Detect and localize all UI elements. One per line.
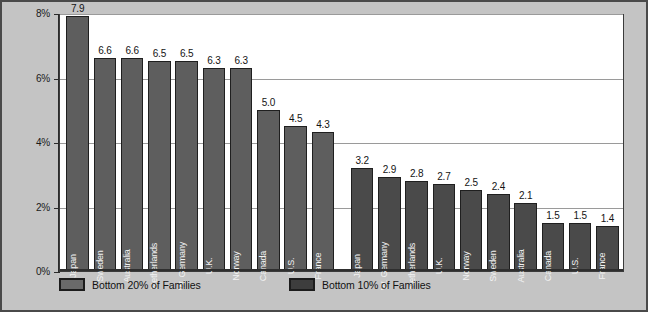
bar[interactable]: W. Germany [378,177,400,271]
bar-column[interactable]: U.S.4.5 [282,13,309,271]
bar-value-label: 1.5 [573,210,586,221]
bar-category-label: France [313,253,323,280]
bar[interactable]: Canada [257,110,279,271]
bar-value-label: 4.3 [316,119,329,130]
legend-label: Bottom 10% of Families [322,279,431,291]
bar-column[interactable]: Australia2.1 [512,13,539,271]
legend-item[interactable]: Bottom 20% of Families [59,278,201,291]
bar-category-label: Norway [461,251,471,280]
bar-value-label: 6.5 [153,48,166,59]
bar-category-label: Sweden [95,250,105,281]
bar[interactable]: Norway [230,68,252,271]
bar-column[interactable]: Japan7.9 [64,13,91,271]
bar-column[interactable]: Australia6.6 [119,13,146,271]
bar-category-label: France [597,253,607,280]
bar[interactable]: France [596,226,618,271]
bar-column[interactable]: Sweden6.6 [91,13,118,271]
bar-category-label: U.K. [434,258,444,275]
bar[interactable]: Japan [351,168,373,271]
x-axis-baseline [60,269,623,271]
bar-value-label: 6.5 [180,48,193,59]
bar-value-label: 1.4 [601,213,614,224]
bar-value-label: 6.6 [125,45,138,56]
bar-column[interactable]: Japan3.2 [349,13,376,271]
y-tick-label: 8% [10,8,50,19]
bar-category-label: Sweden [488,250,498,281]
bar[interactable]: Canada [542,223,564,271]
bar-value-label: 7.9 [71,3,84,14]
bar-column[interactable]: U.K.6.3 [200,13,227,271]
bar[interactable]: Sweden [487,194,509,271]
bar[interactable]: Netherlands [148,61,170,271]
bar-column[interactable]: Netherlands2.8 [403,13,430,271]
bar-column[interactable]: Norway6.3 [228,13,255,271]
bar-column[interactable]: France1.4 [594,13,621,271]
bar-column[interactable]: U.K.2.7 [430,13,457,271]
bar-column[interactable]: U.S.1.5 [567,13,594,271]
bar-category-label: Japan [68,254,78,278]
bars-layer: Japan7.9Sweden6.6Australia6.6Netherlands… [60,14,623,271]
y-tick-label: 2% [10,202,50,213]
bar-column[interactable]: France4.3 [309,13,336,271]
bar[interactable]: Sweden [94,58,116,271]
legend-item[interactable]: Bottom 10% of Families [289,278,431,291]
bar-column[interactable]: W. Germany2.9 [376,13,403,271]
bar[interactable]: U.K. [433,184,455,271]
bar-value-label: 2.7 [437,171,450,182]
legend: Bottom 20% of FamiliesBottom 10% of Fami… [59,278,619,296]
bar-value-label: 2.4 [492,181,505,192]
bar[interactable]: U.S. [284,126,306,271]
bar-category-label: Japan [352,254,362,278]
bar-category-label: U.S. [570,258,580,275]
bar[interactable]: U.S. [569,223,591,271]
bar[interactable]: W. Germany [175,61,197,271]
bar-chart-figure: 0%2%4%6%8% Japan7.9Sweden6.6Australia6.6… [0,0,648,312]
bar-column[interactable]: Canada1.5 [539,13,566,271]
bar-column[interactable]: W. Germany6.5 [173,13,200,271]
bar-value-label: 4.5 [289,113,302,124]
bar[interactable]: Norway [460,190,482,271]
bar-category-label: U.S. [286,258,296,275]
bar-column[interactable]: Canada5.0 [255,13,282,271]
bar[interactable]: Australia [514,203,536,271]
bar-column[interactable]: Netherlands6.5 [146,13,173,271]
bar-value-label: 2.9 [383,164,396,175]
bar-value-label: 3.2 [355,155,368,166]
bar-category-label: Norway [231,251,241,280]
bar-value-label: 1.5 [546,210,559,221]
bar[interactable]: Japan [66,16,88,271]
bar[interactable]: France [312,132,334,271]
bar[interactable]: Netherlands [405,181,427,271]
legend-label: Bottom 20% of Families [92,279,201,291]
bar-category-label: U.K. [204,258,214,275]
bar-value-label: 6.6 [98,45,111,56]
y-tick-label: 6% [10,73,50,84]
bar[interactable]: U.K. [203,68,225,271]
bar-column[interactable]: Sweden2.4 [485,13,512,271]
bar[interactable]: Australia [121,58,143,271]
series-b-swatch [289,278,315,291]
y-tick-label: 0% [10,266,50,277]
series-a-swatch [59,278,85,291]
bar-value-label: 2.8 [410,168,423,179]
bar-column[interactable]: Norway2.5 [458,13,485,271]
bar-value-label: 2.5 [464,177,477,188]
plot-area: Japan7.9Sweden6.6Australia6.6Netherlands… [59,14,624,272]
bar-value-label: 6.3 [207,55,220,66]
bar-category-label: Canada [543,251,553,281]
bar-value-label: 6.3 [234,55,247,66]
bar-value-label: 2.1 [519,190,532,201]
bar-category-label: Canada [258,251,268,281]
bar-value-label: 5.0 [262,97,275,108]
y-tick-label: 4% [10,137,50,148]
